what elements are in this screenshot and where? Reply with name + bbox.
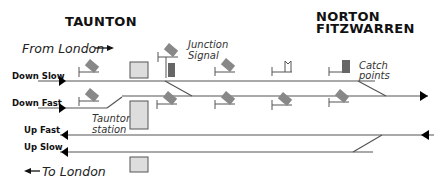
up-slow-arrow-left-icon bbox=[61, 147, 68, 157]
signal-down-slow-3 bbox=[272, 61, 292, 76]
up-slow-track bbox=[60, 135, 382, 157]
from-london-arrow-icon bbox=[95, 45, 114, 51]
signal-down-fast-1 bbox=[79, 88, 99, 106]
down-slow-arrow-icon bbox=[59, 76, 66, 86]
signal-down-slow-1 bbox=[79, 59, 99, 77]
catch-points-diagonal bbox=[358, 81, 386, 96]
signal-arm-icon bbox=[221, 58, 235, 72]
signal-arm-icon bbox=[85, 88, 99, 102]
signal-arm-icon bbox=[163, 91, 177, 105]
junction-signal bbox=[158, 43, 178, 78]
signal-arm-icon bbox=[335, 89, 349, 103]
signal-arm-icon bbox=[85, 59, 99, 73]
up-slow-crossover bbox=[353, 135, 382, 152]
signal-arm-off-icon bbox=[285, 61, 291, 72]
signal-down-fast-3 bbox=[215, 91, 235, 109]
down-fast-arrow-right-icon bbox=[420, 91, 428, 101]
signal-catch-points bbox=[329, 60, 350, 76]
signal-arm-icon bbox=[164, 43, 178, 57]
signal-arm-icon bbox=[342, 60, 350, 73]
up-fast-arrow-left-icon bbox=[61, 130, 68, 140]
platform-down-slow bbox=[130, 62, 148, 78]
down-fast-arrow-left-icon bbox=[59, 103, 66, 113]
signal-down-fast-4 bbox=[272, 92, 292, 110]
to-london-arrow-icon bbox=[24, 168, 40, 174]
signal-arm-icon bbox=[221, 91, 235, 105]
up-fast-arrow-right-icon bbox=[421, 130, 429, 140]
signal-down-fast-5 bbox=[329, 89, 349, 107]
signal-down-fast-2 bbox=[157, 91, 177, 109]
junction-signal-box-icon bbox=[168, 63, 175, 77]
up-fast-track bbox=[60, 130, 434, 140]
signal-arm-icon bbox=[278, 92, 292, 106]
signal-down-slow-2 bbox=[215, 58, 235, 76]
platform-taunton-station bbox=[130, 101, 148, 129]
platform-up-slow bbox=[130, 157, 148, 172]
track-diagram bbox=[0, 0, 446, 185]
